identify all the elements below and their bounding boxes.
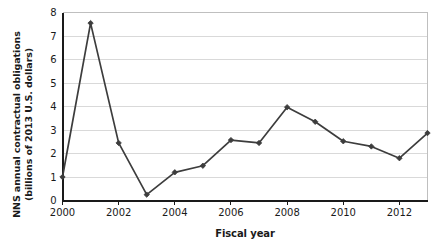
x-tick-label: 2012 xyxy=(387,207,412,218)
data-point-marker xyxy=(369,144,374,149)
y-tick-labels: 012345678 xyxy=(50,7,56,206)
x-tick-label: 2000 xyxy=(50,207,75,218)
x-tick-label: 2010 xyxy=(331,207,356,218)
x-tick-label: 2004 xyxy=(162,207,187,218)
y-tick-label: 6 xyxy=(50,54,56,65)
data-point-marker xyxy=(60,174,65,179)
x-tick-label: 2002 xyxy=(106,207,131,218)
x-tick-label: 2008 xyxy=(274,207,299,218)
y-tick-label: 0 xyxy=(50,195,56,206)
data-point-marker xyxy=(88,20,93,25)
plot-area: 012345678 2000200220042006200820102012 xyxy=(0,0,433,249)
y-tick-label: 1 xyxy=(50,172,56,183)
y-tick-label: 4 xyxy=(50,101,56,112)
data-point-markers xyxy=(60,20,430,197)
gridlines xyxy=(63,13,428,178)
x-axis-title: Fiscal year xyxy=(62,228,428,239)
y-tick-label: 8 xyxy=(50,7,56,18)
y-tick-label: 5 xyxy=(50,78,56,89)
line-chart: NNS annual contractual obligations (bill… xyxy=(0,0,433,249)
y-tick-label: 7 xyxy=(50,31,56,42)
x-tick-labels: 2000200220042006200820102012 xyxy=(50,207,412,218)
data-series-line xyxy=(63,23,428,195)
y-tick-label: 3 xyxy=(50,125,56,136)
y-tick-label: 2 xyxy=(50,148,56,159)
series-line xyxy=(63,23,428,195)
x-tick-label: 2006 xyxy=(218,207,243,218)
